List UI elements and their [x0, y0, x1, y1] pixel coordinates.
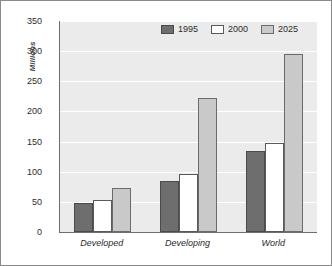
- gridline: [60, 51, 317, 52]
- legend-item-2000: 2000: [211, 25, 248, 34]
- y-axis-tick-label: 0: [2, 228, 42, 237]
- bar-developing-1995: [160, 181, 179, 232]
- legend-swatch-2025: [261, 25, 274, 34]
- legend-swatch-1995: [161, 25, 174, 34]
- bar-developed-2000: [93, 200, 112, 232]
- gridline: [60, 111, 317, 112]
- legend-label-1995: 1995: [178, 25, 198, 34]
- y-axis-tick-label: 100: [2, 168, 42, 177]
- y-axis-tick-label: 350: [2, 17, 42, 26]
- y-axis-tick-label: 250: [2, 77, 42, 86]
- x-axis-label-developing: Developing: [145, 238, 231, 248]
- y-axis-tick-label: 300: [2, 47, 42, 56]
- legend-swatch-2000: [211, 25, 224, 34]
- bar-developing-2025: [198, 98, 217, 232]
- bar-developing-2000: [179, 174, 198, 232]
- chart-frame: Millions 050100150200250300350 Developed…: [0, 0, 332, 266]
- y-axis-tick-label: 50: [2, 198, 42, 207]
- y-axis-tick-label: 200: [2, 107, 42, 116]
- legend-label-2000: 2000: [228, 25, 248, 34]
- bar-developed-2025: [112, 188, 131, 232]
- chart-legend: 199520002025: [161, 25, 298, 34]
- x-axis-label-world: World: [230, 238, 316, 248]
- bar-world-2000: [265, 143, 284, 232]
- legend-item-2025: 2025: [261, 25, 298, 34]
- gridline: [60, 21, 317, 22]
- plot-area: [59, 21, 317, 233]
- legend-label-2025: 2025: [278, 25, 298, 34]
- bar-world-1995: [246, 151, 265, 232]
- gridline: [60, 81, 317, 82]
- x-axis-label-developed: Developed: [59, 238, 145, 248]
- chart-canvas: Millions 050100150200250300350 Developed…: [6, 6, 326, 260]
- bar-world-2025: [284, 54, 303, 232]
- bar-developed-1995: [74, 203, 93, 232]
- legend-item-1995: 1995: [161, 25, 198, 34]
- y-axis-tick-label: 150: [2, 138, 42, 147]
